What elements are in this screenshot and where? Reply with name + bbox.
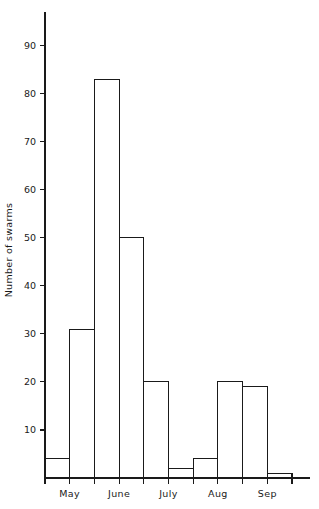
y-axis-tick-label: 50 <box>24 232 36 243</box>
histogram-bar <box>243 387 268 478</box>
histogram-bar <box>94 79 119 478</box>
bars-group <box>45 79 292 478</box>
x-axis-category-label: May <box>59 488 80 499</box>
y-axis-tick-label: 60 <box>24 184 36 195</box>
x-axis-group: MayJuneJulyAugSep <box>45 478 310 499</box>
histogram-bar <box>70 329 95 478</box>
x-axis-category-label: Aug <box>208 488 228 499</box>
x-axis-category-labels: MayJuneJulyAugSep <box>59 488 277 499</box>
y-axis-tick-label: 80 <box>24 88 36 99</box>
x-axis-category-label: June <box>107 488 130 499</box>
y-axis-title: Number of swarms <box>3 203 14 298</box>
histogram-bar <box>45 459 70 478</box>
y-axis-group: 102030405060708090 <box>24 12 45 478</box>
y-axis-ticks <box>40 46 45 430</box>
y-axis-tick-label: 90 <box>24 40 36 51</box>
histogram-bar <box>218 382 243 478</box>
y-axis-tick-label: 30 <box>24 328 36 339</box>
y-axis-tick-label: 40 <box>24 280 36 291</box>
histogram-bar <box>193 459 218 478</box>
histogram-chart: 102030405060708090 MayJuneJulyAugSep Num… <box>0 0 319 509</box>
y-axis-tick-label: 20 <box>24 376 36 387</box>
histogram-bar <box>144 382 169 478</box>
y-axis-tick-label: 10 <box>24 424 36 435</box>
chart-canvas: 102030405060708090 MayJuneJulyAugSep Num… <box>0 0 319 509</box>
histogram-bar <box>119 238 144 478</box>
x-axis-category-label: Sep <box>258 488 277 499</box>
y-axis-tick-label: 70 <box>24 136 36 147</box>
x-axis-category-label: July <box>158 488 178 499</box>
histogram-bar <box>169 468 194 478</box>
x-axis-ticks <box>45 478 292 484</box>
y-axis-tick-labels: 102030405060708090 <box>24 40 36 435</box>
histogram-bar <box>267 473 292 478</box>
